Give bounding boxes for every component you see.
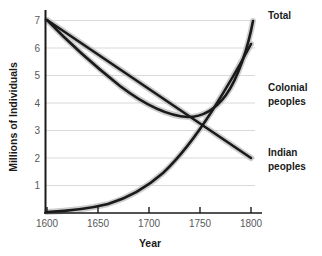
y-tick-label-2: 2 [34, 153, 40, 164]
series-label-total: Total [268, 10, 291, 21]
series-lines [47, 20, 253, 212]
series-label-colonial-line2: peoples [268, 96, 306, 107]
y-tick-label-1: 1 [34, 180, 40, 191]
y-tick-label-3: 3 [34, 125, 40, 136]
x-tick-labels: 1600 1650 1700 1750 1800 [36, 218, 263, 229]
series-line-indian-peoples [47, 20, 251, 158]
x-axis-title: Year [139, 237, 161, 249]
x-tick-label-1800: 1800 [240, 218, 263, 229]
y-tick-labels: 7 6 5 4 3 2 1 [34, 15, 40, 191]
series-label-indian-line1: Indian [268, 147, 297, 158]
total-halo [47, 20, 253, 117]
y-tick-label-5: 5 [34, 70, 40, 81]
x-tick-label-1750: 1750 [189, 218, 212, 229]
y-tick-label-4: 4 [34, 98, 40, 109]
chart-canvas: 7 6 5 4 3 2 1 1600 1650 1700 1750 1800 M… [0, 0, 322, 256]
x-tick-label-1600: 1600 [36, 218, 59, 229]
x-tick-label-1700: 1700 [138, 218, 161, 229]
series-label-colonial-line1: Colonial [268, 82, 308, 93]
y-tick-label-7: 7 [34, 15, 40, 26]
series-label-indian-line2: peoples [268, 161, 306, 172]
y-tick-label-6: 6 [34, 43, 40, 54]
population-line-chart: 7 6 5 4 3 2 1 1600 1650 1700 1750 1800 M… [0, 0, 322, 256]
y-axis-title: Millions of Individuals [7, 62, 19, 172]
x-tick-label-1650: 1650 [87, 218, 110, 229]
colonial-halo [47, 44, 251, 212]
